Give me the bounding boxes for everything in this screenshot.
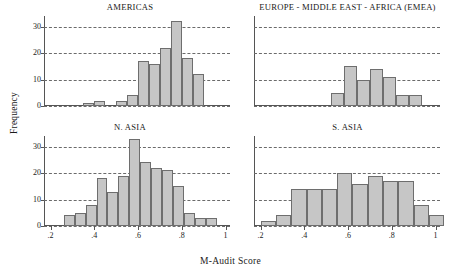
plot-area: 0102030 .2.4.6.81	[44, 136, 230, 226]
bars	[44, 16, 230, 106]
y-tick-label: 30	[33, 23, 41, 31]
histogram-bar	[195, 218, 206, 226]
x-tick-label: .4	[91, 232, 97, 240]
y-tick-label: 0	[37, 222, 41, 230]
y-tick-mark	[41, 147, 44, 148]
x-tick-label: .8	[179, 232, 185, 240]
y-tick-label: 20	[33, 169, 41, 177]
histogram-bar	[184, 213, 195, 226]
histogram-bar	[129, 139, 140, 226]
x-tick-labels: .2.4.6.81	[254, 226, 440, 246]
histogram-bar	[398, 181, 413, 226]
y-tick-mark	[41, 200, 44, 201]
x-tick-label: 1	[224, 232, 228, 240]
histogram-bar	[97, 178, 108, 226]
panel-title: AMERICAS	[30, 2, 230, 12]
histogram-bar	[322, 189, 337, 226]
histogram-bar	[149, 64, 160, 106]
gridline	[44, 106, 230, 107]
histogram-bar	[151, 168, 162, 226]
x-tick-mark	[348, 226, 349, 230]
y-tick-label: 20	[33, 49, 41, 57]
histogram-bar	[140, 162, 151, 226]
histogram-bar	[429, 215, 444, 226]
histogram-bar	[75, 213, 86, 226]
y-tick-label: 10	[33, 196, 41, 204]
histogram-bar	[86, 205, 97, 226]
histogram-bar	[83, 103, 94, 106]
histogram-bar	[160, 48, 171, 106]
x-tick-mark	[261, 226, 262, 230]
histogram-bar	[182, 58, 193, 106]
histogram-bar	[383, 77, 396, 106]
plot-area	[254, 16, 440, 106]
x-tick-mark	[138, 226, 139, 230]
histogram-bar	[118, 176, 129, 226]
y-tick-mark	[41, 27, 44, 28]
histogram-bar	[368, 176, 383, 226]
histogram-bar	[206, 218, 217, 226]
histogram-bar	[276, 215, 291, 226]
histogram-bar	[396, 95, 409, 106]
panel-title: EUROPE - MIDDLE EAST - AFRICA (EMEA)	[240, 2, 455, 12]
x-tick-mark	[436, 226, 437, 230]
x-tick-mark	[182, 226, 183, 230]
panel-title: S. ASIA	[240, 122, 455, 132]
x-tick-labels: .2.4.6.81	[44, 226, 230, 246]
gridline	[254, 106, 440, 107]
x-tick-label: .6	[135, 232, 141, 240]
histogram-bar	[116, 101, 127, 106]
histogram-bar	[307, 189, 322, 226]
x-tick-label: .4	[301, 232, 307, 240]
histogram-bar	[193, 74, 204, 106]
x-tick-label: .2	[258, 232, 264, 240]
panel-americas: AMERICAS 0102030	[30, 2, 230, 120]
panel-title: N. ASIA	[30, 122, 230, 132]
x-tick-label: .8	[389, 232, 395, 240]
x-tick-label: 1	[434, 232, 438, 240]
y-tick-label: 30	[33, 143, 41, 151]
x-tick-mark	[392, 226, 393, 230]
y-tick-mark	[41, 173, 44, 174]
x-tick-label: .6	[345, 232, 351, 240]
histogram-bar	[414, 205, 429, 226]
y-axis-label: Frequency	[9, 73, 19, 153]
bars	[44, 136, 230, 226]
histogram-bar	[352, 184, 367, 226]
x-axis-label: M-Audit Score	[0, 256, 461, 266]
histogram-bar	[291, 189, 306, 226]
histogram-bar	[173, 186, 184, 226]
histogram-bar	[383, 181, 398, 226]
bars	[254, 16, 440, 106]
histogram-bar	[337, 173, 352, 226]
histogram-bar	[94, 101, 105, 106]
plot-area: .2.4.6.81	[254, 136, 440, 226]
y-tick-mark	[41, 80, 44, 81]
histogram-bar	[107, 192, 118, 226]
x-tick-mark	[94, 226, 95, 230]
histogram-bar	[127, 95, 138, 106]
y-tick-label: 0	[37, 102, 41, 110]
figure-root: Frequency M-Audit Score AMERICAS 0102030…	[0, 0, 461, 276]
y-tick-label: 10	[33, 76, 41, 84]
histogram-bar	[409, 95, 422, 106]
histogram-bar	[331, 93, 344, 106]
x-tick-mark	[226, 226, 227, 230]
plot-area: 0102030	[44, 16, 230, 106]
histogram-bar	[370, 69, 383, 106]
y-tick-mark	[41, 106, 44, 107]
histogram-bar	[344, 66, 357, 106]
panel-emea: EUROPE - MIDDLE EAST - AFRICA (EMEA)	[240, 2, 455, 120]
x-tick-mark	[304, 226, 305, 230]
histogram-bar	[357, 80, 370, 106]
histogram-bar	[64, 215, 75, 226]
histogram-bar	[171, 21, 182, 106]
panel-s-asia: S. ASIA .2.4.6.81	[240, 122, 455, 252]
panel-n-asia: N. ASIA 0102030 .2.4.6.81	[30, 122, 230, 252]
y-tick-mark	[41, 53, 44, 54]
x-tick-label: .2	[48, 232, 54, 240]
bars	[254, 136, 440, 226]
x-tick-mark	[51, 226, 52, 230]
histogram-bar	[162, 170, 173, 226]
histogram-bar	[138, 61, 149, 106]
